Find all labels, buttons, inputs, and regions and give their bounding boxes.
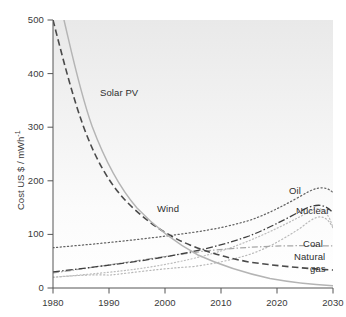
series-label-oil: Oil <box>289 185 301 196</box>
y-tick-label-0: 0 <box>14 282 44 293</box>
x-tick-label-1980: 1980 <box>33 297 73 308</box>
x-tick-label-2010: 2010 <box>201 297 241 308</box>
series-label-natural-gas-line1: Natural <box>294 251 325 262</box>
series-label-natural-gas-line2: gas <box>310 263 326 274</box>
y-tick-label-300: 300 <box>14 121 44 132</box>
x-axis-ticks <box>53 288 333 294</box>
y-axis-title: Cost US $ / mWh-1 <box>14 130 26 210</box>
x-tick-label-2030: 2030 <box>313 297 346 308</box>
x-tick-label-2020: 2020 <box>257 297 297 308</box>
y-tick-label-400: 400 <box>14 68 44 79</box>
series-label-wind: Wind <box>157 203 179 214</box>
series-label-nuclear: Nuclear <box>296 205 329 216</box>
y-tick-label-100: 100 <box>14 228 44 239</box>
chart-plot-svg <box>0 0 346 317</box>
y-axis-title-text: Cost US $ / mWh <box>15 137 26 210</box>
y-tick-label-200: 200 <box>14 175 44 186</box>
series-label-coal: Coal <box>303 238 323 249</box>
chart-container: Cost US $ / mWh-1 500 400 300 200 100 0 … <box>0 0 346 317</box>
y-tick-label-500: 500 <box>14 14 44 25</box>
x-tick-label-2000: 2000 <box>145 297 185 308</box>
series-label-solar-pv: Solar PV <box>100 87 138 98</box>
y-axis-ticks <box>48 20 54 288</box>
x-tick-label-1990: 1990 <box>89 297 129 308</box>
